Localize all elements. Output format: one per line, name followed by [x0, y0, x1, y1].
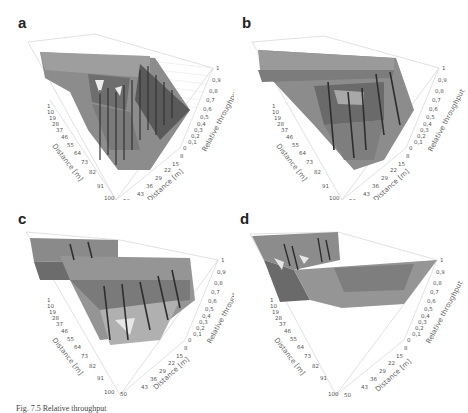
y-tick: 43 [141, 384, 148, 390]
y-tick: 29 [155, 175, 162, 181]
z-tick: 0,6 [429, 106, 438, 112]
x-tick: 55 [67, 336, 74, 342]
x-tick: 55 [67, 142, 74, 148]
z-tick: 0,5 [424, 306, 433, 312]
x-tick: 55 [292, 142, 299, 148]
x-tick: 46 [61, 134, 68, 140]
y-tick: 22 [390, 167, 397, 173]
y-tick: 15 [396, 353, 403, 359]
z-tick: 0 [188, 337, 192, 343]
z-tick: 0,7 [432, 97, 441, 103]
x-tick: 100 [328, 391, 339, 397]
x-tick: 37 [56, 321, 63, 327]
x-tick: 64 [74, 344, 81, 350]
z-tick: 0,8 [433, 280, 442, 286]
z-tick: 0,1 [414, 139, 423, 145]
y-tick: 8 [406, 153, 410, 159]
z-tick: 0,9 [438, 77, 447, 83]
x-tick: 46 [61, 328, 68, 334]
z-tick: 0 [409, 145, 413, 151]
y-tick: 43 [363, 191, 370, 197]
y-tick: 22 [388, 360, 395, 366]
x-tick: 46 [286, 134, 293, 140]
z-tick: 0,9 [436, 269, 445, 275]
z-tick: 0,1 [412, 331, 421, 337]
y-tick: 8 [184, 345, 188, 351]
z-tick: 1 [221, 257, 225, 263]
z-tick: 0,8 [435, 88, 444, 94]
surface-plot: 1 0,9 0,8 0,7 0,6 0,5 0,4 0,3 0,2 0,1 0 … [0, 200, 234, 400]
x-tick: 37 [281, 127, 288, 133]
x-left-axis-title: Distance [m] [274, 142, 308, 183]
x-tick: 64 [74, 150, 81, 156]
z-tick: 0,5 [426, 114, 435, 120]
surface-plot: 1 0,9 0,8 0,7 0,6 0,5 0,4 0,3 0,2 0,1 0 … [234, 200, 468, 400]
z-tick: 0,7 [211, 289, 220, 295]
y-tick: 43 [137, 191, 144, 197]
z-tick: 1 [440, 257, 444, 263]
x-tick: 91 [97, 183, 104, 189]
y-tick: 36 [370, 376, 377, 382]
x-tick: 73 [304, 353, 311, 359]
z-tick: 0,8 [214, 280, 223, 286]
x-tick: 64 [297, 344, 304, 350]
y-tick: 50 [120, 391, 127, 397]
x-tick: 37 [279, 321, 286, 327]
z-tick: 0,5 [200, 114, 209, 120]
z-tick: 0,7 [430, 289, 439, 295]
panel-c: c 1 0,9 0,8 0,7 0,6 0,5 0,4 0,3 0,2 [0, 200, 234, 400]
z-tick: 0,6 [203, 106, 212, 112]
z-tick: 0,8 [209, 88, 218, 94]
z-tick: 0,1 [188, 139, 197, 145]
x-tick: 100 [104, 389, 115, 395]
z-tick: 1 [216, 65, 220, 71]
y-tick: 15 [172, 161, 179, 167]
x-tick: 46 [284, 328, 291, 334]
z-tick: 0,5 [205, 306, 214, 312]
x-left-axis-title: Distance [m] [50, 142, 84, 183]
y-tick: 8 [404, 345, 408, 351]
y-tick: 50 [344, 392, 351, 398]
x-tick: 82 [314, 169, 321, 175]
x-left-axis-title: Distance [m] [50, 336, 84, 377]
z-tick: 0,7 [206, 97, 215, 103]
x-tick: 91 [97, 375, 104, 381]
x-tick: 73 [81, 159, 88, 165]
surface-plot: 1 0,9 0,8 0,7 0,6 0,5 0,4 0,3 0,2 0,1 0 … [0, 0, 234, 200]
y-tick: 36 [372, 183, 379, 189]
y-tick: 29 [379, 368, 386, 374]
figure-caption: Fig. 7.5 Relative throughput [16, 404, 106, 413]
x-tick: 37 [56, 127, 63, 133]
x-tick: 82 [89, 363, 96, 369]
y-tick: 8 [180, 153, 184, 159]
z-tick: 0,6 [208, 298, 217, 304]
x-tick: 73 [81, 353, 88, 359]
panel-d: d 1 0,9 0,8 0,7 0,6 0,5 0,4 0,3 0,2 0,1 … [234, 200, 468, 400]
y-tick: 43 [361, 384, 368, 390]
z-tick: 0,6 [427, 298, 436, 304]
x-tick: 82 [312, 363, 319, 369]
y-tick: 36 [146, 183, 153, 189]
y-tick: 22 [164, 167, 171, 173]
z-tick: 1 [442, 65, 446, 71]
x-tick: 73 [306, 159, 313, 165]
z-tick: 0,1 [193, 331, 202, 337]
panel-b: b 1 0,9 0,8 0,7 0,6 0,5 0,4 0,3 0,2 0,1 [234, 0, 468, 200]
y-tick: 15 [398, 161, 405, 167]
z-tick: 0,9 [212, 77, 221, 83]
x-tick: 64 [299, 150, 306, 156]
z-tick: 0 [407, 337, 411, 343]
x-left-axis-title: Distance [m] [272, 336, 306, 377]
panel-a: a 1 0,9 0, [0, 0, 234, 200]
surface-plot: 1 0,9 0,8 0,7 0,6 0,5 0,4 0,3 0,2 0,1 0 … [234, 0, 468, 200]
y-tick: 29 [381, 175, 388, 181]
x-tick: 91 [322, 183, 329, 189]
x-tick: 82 [89, 169, 96, 175]
z-tick: 0 [183, 145, 187, 151]
x-tick: 91 [320, 375, 327, 381]
x-tick: 55 [290, 336, 297, 342]
z-tick: 0,9 [217, 269, 226, 275]
